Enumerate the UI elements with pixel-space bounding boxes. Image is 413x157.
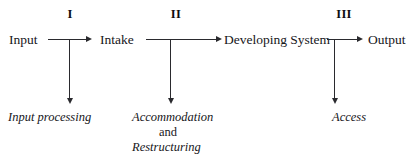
arrowhead-right-intake <box>86 36 92 42</box>
arrowhead-down-accommodation <box>168 98 174 104</box>
arrowhead-down-input-processing <box>67 98 73 104</box>
sublabel-restructuring: Restructuring <box>132 141 201 154</box>
node-output: Output <box>368 33 406 47</box>
arrowhead-right-output <box>357 36 363 42</box>
sublabel-input-processing: Input processing <box>8 111 91 124</box>
connector-developing-system-to-output <box>327 39 357 40</box>
connector-input-to-intake <box>48 39 86 40</box>
connector-branch-access <box>334 40 335 98</box>
connector-branch-accommodation <box>170 40 171 98</box>
node-intake: Intake <box>100 33 134 47</box>
stage-numeral-iii: III <box>336 8 352 21</box>
sublabel-access: Access <box>332 111 366 124</box>
stage-numeral-i: I <box>67 8 72 21</box>
sublabel-accommodation: Accommodation <box>132 111 213 124</box>
node-input: Input <box>9 33 38 47</box>
connector-intake-to-developing-system <box>146 39 216 40</box>
arrowhead-right-developing-system <box>216 36 222 42</box>
stage-numeral-ii: II <box>171 8 181 21</box>
connector-branch-input-processing <box>69 40 70 98</box>
flow-diagram: I II III Input Intake Developing System … <box>0 0 413 157</box>
arrowhead-down-access <box>332 98 338 104</box>
node-developing-system: Developing System <box>224 33 330 47</box>
sublabel-and: and <box>159 126 177 139</box>
